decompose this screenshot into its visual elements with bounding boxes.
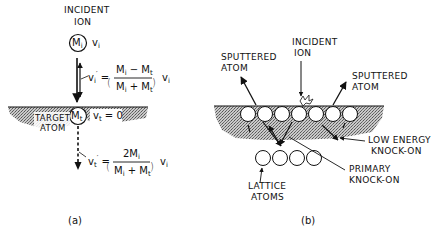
svg-text:): ) xyxy=(150,161,154,172)
recoil-velocity-equation: vt′ = ( 2Mi Mi + Mt ) vi xyxy=(88,148,168,178)
impact-burst-icon xyxy=(300,95,313,106)
svg-text:Mi − Mt: Mi − Mt xyxy=(116,64,153,77)
incident-ion-label-2: ION xyxy=(74,17,91,27)
low-energy-leader xyxy=(340,138,365,141)
svg-text:vi: vi xyxy=(162,72,170,85)
svg-text:(: ( xyxy=(107,77,111,88)
sputtering-diagram: INCIDENT ION Mi vi vi′ = ( Mi − Mt Mi + … xyxy=(0,0,435,242)
recoil-arrowhead xyxy=(75,162,82,170)
caption-b: (b) xyxy=(301,215,315,226)
reflected-velocity-equation: vi′ = ( Mi − Mt Mi + Mt ) vi xyxy=(88,64,170,94)
svg-text:(: ( xyxy=(106,161,110,172)
target-atom-label-2: ATOM xyxy=(40,123,66,133)
caption-a: (a) xyxy=(68,215,82,226)
svg-text:vi′ =: vi′ = xyxy=(88,70,109,85)
primary-knockon-label-2: KNOCK-ON xyxy=(349,175,400,185)
sputtered-atom-left-label: SPUTTERED xyxy=(221,52,277,62)
sputtered-right-arrow xyxy=(333,82,346,105)
low-energy-knockon-label-2: KNOCK-ON xyxy=(371,146,422,156)
panel-b: INCIDENT ION SPUTTERED ATOM SPUTTERED AT… xyxy=(214,37,431,226)
incident-ion-label-b: INCIDENT xyxy=(292,37,338,47)
lattice-atom-row xyxy=(256,151,322,166)
sputtered-atom-right-label: SPUTTERED xyxy=(352,71,408,81)
sputtered-left-arrow xyxy=(241,77,256,105)
incident-ion-label-b-2: ION xyxy=(294,48,311,58)
panel-a: INCIDENT ION Mi vi vi′ = ( Mi − Mt Mi + … xyxy=(8,5,170,226)
svg-text:Mi + Mt: Mi + Mt xyxy=(114,165,151,178)
target-atom-label: TARGET xyxy=(34,113,71,123)
reflected-leader xyxy=(81,76,88,79)
lattice-atoms-label: LATTICE xyxy=(248,181,286,191)
svg-text:Mi + Mt: Mi + Mt xyxy=(116,81,153,94)
sputtered-atom-left-label-2: ATOM xyxy=(221,63,248,73)
lattice-atoms-label-2: ATOMS xyxy=(251,192,284,202)
low-energy-knockon-label: LOW ENERGY xyxy=(368,135,431,145)
ion-velocity: vi xyxy=(92,37,100,50)
sputtered-atom-right-label-2: ATOM xyxy=(352,82,379,92)
svg-text:vi: vi xyxy=(160,156,168,169)
recoil-leader xyxy=(79,152,86,157)
incident-ion-label: INCIDENT xyxy=(64,5,110,15)
svg-text:): ) xyxy=(152,77,156,88)
svg-text:2Mi: 2Mi xyxy=(123,148,140,161)
primary-knockon-label: PRIMARY xyxy=(349,164,391,174)
